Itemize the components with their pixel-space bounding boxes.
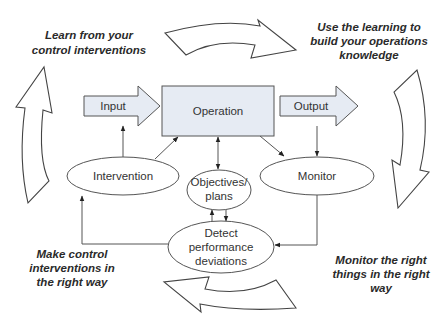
operation-node: Operation [162,86,274,136]
svg-text:build your operations: build your operations [310,35,428,47]
intervention-label: Intervention [93,170,153,182]
svg-text:knowledge: knowledge [339,49,399,61]
svg-text:control interventions: control interventions [32,44,146,56]
svg-text:way: way [370,282,392,294]
cycle-arrow-right-icon [392,70,429,208]
intervention-node: Intervention [67,157,179,195]
detect-label-line1: Detect [204,227,238,239]
detect-node: Detect performance deviations [168,221,274,273]
cycle-arrow-left-icon [16,67,52,203]
objectives-label-line1: Objectives/ [191,176,249,188]
input-node: Input [84,86,160,126]
svg-text:the right way: the right way [37,276,109,288]
output-label: Output [294,100,329,112]
detect-label-line3: deviations [195,255,247,267]
objectives-node: Objectives/ plans [187,170,251,210]
caption-bottom-left: Make control interventions in the right … [29,248,115,288]
svg-text:Monitor the right: Monitor the right [335,254,428,266]
operation-to-monitor-connector [260,136,284,156]
svg-text:Make control: Make control [37,248,109,260]
detect-to-intervention-connector [82,196,168,244]
input-label: Input [100,100,126,112]
svg-text:Learn from your: Learn from your [45,29,134,41]
cycle-arrow-bottom-icon [164,277,296,312]
caption-bottom-right: Monitor the right things in the right wa… [332,254,430,294]
output-node: Output [280,86,358,126]
caption-top-right: Use the learning to build your operation… [310,21,428,61]
control-cycle-diagram: Input Operation Output Intervention Moni… [0,0,447,325]
monitor-node: Monitor [260,157,374,195]
detect-label-line2: performance [189,241,254,253]
monitor-to-detect-connector [275,194,317,245]
svg-text:Use the learning to: Use the learning to [317,21,421,33]
cycle-arrow-top-icon [165,20,296,58]
operation-label: Operation [193,105,244,117]
svg-text:things in the right: things in the right [332,268,430,280]
objectives-label-line2: plans [205,190,233,202]
caption-top-left: Learn from your control interventions [32,29,146,56]
svg-text:interventions in: interventions in [29,262,115,274]
monitor-label: Monitor [298,170,337,182]
intervention-to-operation-connector [155,137,178,159]
